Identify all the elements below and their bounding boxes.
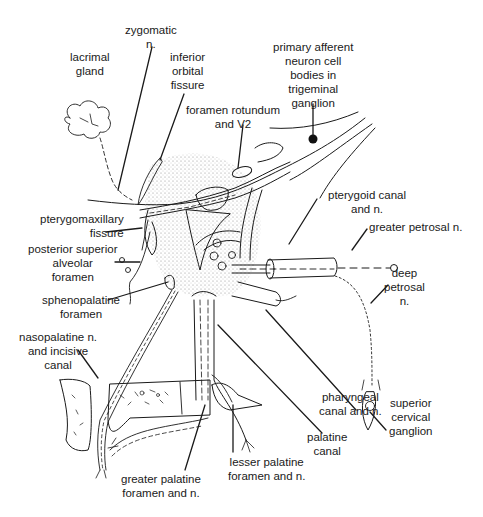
label-foramen-rotundum: foramen rotundum and V2 [186, 103, 280, 131]
anatomy-diagram: zygomatic n. lacrimal gland inferior orb… [0, 0, 483, 517]
label-lesser-palatine-foramen: lesser palatine foramen and n. [228, 455, 305, 483]
label-lacrimal-gland: lacrimal gland [70, 50, 110, 78]
label-posterior-superior-alveolar-foramen: posterior superior alveolar foramen [28, 242, 117, 284]
label-sphenopalatine-foramen: sphenopalatine foramen [42, 293, 120, 321]
label-greater-petrosal-n: greater petrosal n. [369, 220, 462, 234]
label-inferior-orbital-fissure: inferior orbital fissure [170, 50, 205, 92]
label-primary-afferent-neuron: primary afferent neuron cell bodies in t… [273, 40, 353, 110]
label-greater-palatine-foramen: greater palatine foramen and n. [121, 472, 201, 500]
label-nasopalatine-n: nasopalatine n. and incisive canal [19, 330, 97, 372]
label-deep-petrosal-n: deep petrosal n. [384, 266, 425, 308]
label-pharyngeal-canal: pharyngeal canal and n. [319, 390, 382, 418]
label-pterygoid-canal: pterygoid canal and n. [328, 188, 406, 216]
label-superior-cervical-ganglion: superior cervical ganglion [389, 396, 432, 438]
label-palatine-canal: palatine canal [307, 430, 347, 458]
label-pterygomaxillary-fissure: pterygomaxillary fissure [40, 212, 124, 240]
label-zygomatic-n: zygomatic n. [125, 23, 177, 51]
lacrimal-gland-shape [65, 101, 111, 138]
